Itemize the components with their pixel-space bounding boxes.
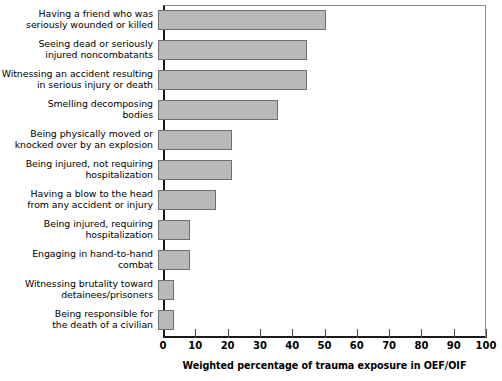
bar-row: Witnessing brutality toward detainees/pr… (0, 275, 486, 305)
x-tick (325, 329, 326, 338)
bar (158, 10, 326, 30)
bar-track (158, 5, 481, 35)
x-tick (389, 329, 390, 338)
bar-chart: Having a friend who was seriously wounde… (0, 0, 502, 381)
x-tick (228, 329, 229, 338)
x-tick (260, 329, 261, 338)
x-tick (421, 329, 422, 338)
bar-track (158, 65, 481, 95)
bar-rows: Having a friend who was seriously wounde… (0, 5, 486, 336)
bar-track (158, 35, 481, 65)
bar-row: Seeing dead or seriously injured noncomb… (0, 35, 486, 65)
bar-row: Being physically moved or knocked over b… (0, 125, 486, 155)
x-tick (486, 329, 487, 338)
bar (158, 250, 190, 270)
category-label: Witnessing an accident resulting in seri… (0, 69, 158, 90)
bar (158, 160, 232, 180)
bar (158, 280, 174, 300)
bar-row: Being injured, requiring hospitalization (0, 215, 486, 245)
category-label: Having a blow to the head from any accid… (0, 189, 158, 210)
bar-row: Having a friend who was seriously wounde… (0, 5, 486, 35)
x-tick-label: 10 (188, 340, 202, 351)
bar-track (158, 275, 481, 305)
bar-track (158, 215, 481, 245)
x-tick (195, 329, 196, 338)
bar-track (158, 125, 481, 155)
x-tick (357, 329, 358, 338)
x-tick-label: 0 (160, 340, 167, 351)
category-label: Being injured, requiring hospitalization (0, 219, 158, 240)
bar-track (158, 185, 481, 215)
category-label: Being physically moved or knocked over b… (0, 129, 158, 150)
x-tick-label: 60 (350, 340, 364, 351)
x-tick-label: 40 (285, 340, 299, 351)
x-tick (454, 329, 455, 338)
bar (158, 220, 190, 240)
x-tick-label: 20 (221, 340, 235, 351)
x-tick-label: 70 (382, 340, 396, 351)
bar-row: Smelling decomposing bodies (0, 95, 486, 125)
category-label: Witnessing brutality toward detainees/pr… (0, 279, 158, 300)
category-label: Being injured, not requiring hospitaliza… (0, 159, 158, 180)
bar (158, 190, 216, 210)
bar-row: Being injured, not requiring hospitaliza… (0, 155, 486, 185)
bar-row: Witnessing an accident resulting in seri… (0, 65, 486, 95)
bar-track (158, 245, 481, 275)
bar (158, 100, 278, 120)
x-tick-label: 80 (414, 340, 428, 351)
bar (158, 70, 307, 90)
bar-track (158, 95, 481, 125)
bar-row: Engaging in hand-to-hand combat (0, 245, 486, 275)
x-tick (292, 329, 293, 338)
category-label: Being responsible for the death of a civ… (0, 309, 158, 330)
bar-row: Having a blow to the head from any accid… (0, 185, 486, 215)
category-label: Smelling decomposing bodies (0, 99, 158, 120)
x-tick-label: 50 (318, 340, 332, 351)
category-label: Having a friend who was seriously wounde… (0, 9, 158, 30)
category-label: Engaging in hand-to-hand combat (0, 249, 158, 270)
category-label: Seeing dead or seriously injured noncomb… (0, 39, 158, 60)
x-axis-title: Weighted percentage of trauma exposure i… (163, 360, 486, 371)
bar (158, 130, 232, 150)
x-axis-tick-labels: 0102030405060708090100 (163, 340, 486, 354)
x-tick-label: 90 (447, 340, 461, 351)
bar-track (158, 155, 481, 185)
x-axis-ticks (163, 327, 486, 338)
x-tick-label: 30 (253, 340, 267, 351)
bar (158, 40, 307, 60)
x-tick-label: 100 (476, 340, 497, 351)
